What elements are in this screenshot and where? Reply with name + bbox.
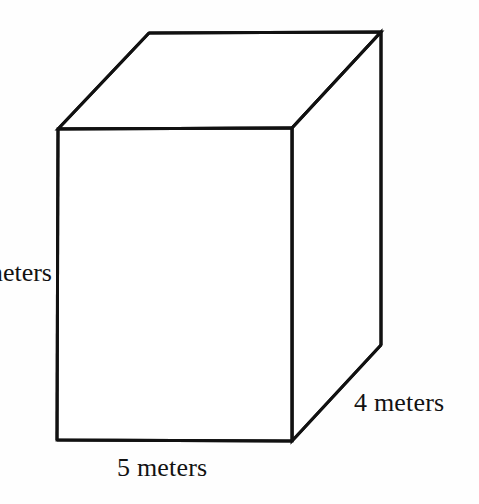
- depth-dimension-label: 4 meters: [354, 390, 444, 416]
- height-dimension-label: meters: [0, 258, 52, 288]
- edge-front-bottom: [57, 440, 292, 441]
- height-dimension-label-clip: meters: [0, 258, 52, 290]
- edge-front-top: [58, 128, 292, 129]
- prism-figure: 5 meters 4 meters meters: [0, 0, 479, 504]
- edge-front-left: [57, 129, 58, 440]
- width-dimension-label: 5 meters: [117, 455, 207, 481]
- rectangular-prism-drawing: [0, 0, 479, 504]
- edge-top-back: [149, 32, 381, 33]
- prism-front-face: [57, 128, 292, 441]
